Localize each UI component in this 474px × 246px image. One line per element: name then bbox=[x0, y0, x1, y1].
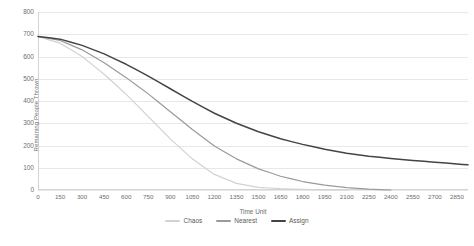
y-tick-label: 800 bbox=[4, 9, 34, 16]
x-tick-label: 1500 bbox=[252, 194, 266, 200]
x-tick-label: 2100 bbox=[340, 194, 354, 200]
legend-item-chaos[interactable]: Chaos bbox=[165, 218, 202, 225]
series-line-assign bbox=[38, 36, 468, 164]
x-tick-label: 0 bbox=[36, 194, 39, 200]
x-tick-label: 750 bbox=[143, 194, 153, 200]
legend-swatch-nearest-icon bbox=[216, 220, 231, 222]
y-tick-label: 700 bbox=[4, 31, 34, 38]
x-tick-label: 1350 bbox=[230, 194, 244, 200]
x-tick-label: 1050 bbox=[185, 194, 199, 200]
y-tick-label: 300 bbox=[4, 120, 34, 127]
gridline bbox=[38, 190, 468, 191]
series-lines bbox=[38, 12, 468, 190]
x-tick-label: 450 bbox=[99, 194, 109, 200]
x-tick-label: 2550 bbox=[406, 194, 420, 200]
line-chart: 0100200300400500600700800 01503004506007… bbox=[0, 0, 474, 246]
legend-swatch-chaos-icon bbox=[165, 220, 180, 222]
x-tick-label: 2700 bbox=[428, 194, 442, 200]
x-tick-label: 2850 bbox=[450, 194, 464, 200]
y-tick-label: 600 bbox=[4, 53, 34, 60]
legend-item-nearest[interactable]: Nearest bbox=[216, 218, 257, 225]
x-tick-label: 150 bbox=[55, 194, 65, 200]
y-tick-label: 400 bbox=[4, 98, 34, 105]
legend-label: Chaos bbox=[183, 218, 202, 225]
y-tick-label: 0 bbox=[4, 187, 34, 194]
legend-label: Nearest bbox=[234, 218, 257, 225]
legend-swatch-assign-icon bbox=[271, 220, 286, 222]
x-tick-label: 1650 bbox=[274, 194, 288, 200]
x-tick-label: 2250 bbox=[362, 194, 376, 200]
x-tick-label: 1950 bbox=[318, 194, 332, 200]
x-tick-label: 600 bbox=[121, 194, 131, 200]
x-tick-label: 1800 bbox=[296, 194, 310, 200]
x-axis-title: Time Unit bbox=[38, 208, 468, 215]
plot-area: 0100200300400500600700800 01503004506007… bbox=[38, 12, 468, 190]
chart-legend: ChaosNearestAssign bbox=[0, 218, 474, 225]
y-axis-title: Remaining People Thrown bbox=[33, 79, 39, 152]
series-line-chaos bbox=[38, 36, 347, 190]
legend-label: Assign bbox=[289, 218, 309, 225]
y-tick-label: 500 bbox=[4, 76, 34, 83]
x-tick-label: 900 bbox=[165, 194, 175, 200]
legend-item-assign[interactable]: Assign bbox=[271, 218, 309, 225]
x-tick-label: 1200 bbox=[208, 194, 222, 200]
x-tick-label: 300 bbox=[77, 194, 87, 200]
y-tick-label: 100 bbox=[4, 165, 34, 172]
y-tick-label: 200 bbox=[4, 142, 34, 149]
x-tick-label: 2400 bbox=[384, 194, 398, 200]
